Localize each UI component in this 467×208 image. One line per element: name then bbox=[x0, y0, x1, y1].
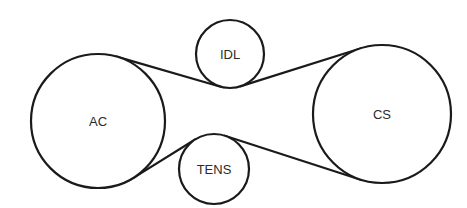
belt-routing-diagram: AC IDL TENS CS bbox=[0, 0, 467, 208]
pulley-ac-label: AC bbox=[89, 114, 107, 129]
pulley-cs: CS bbox=[313, 45, 451, 183]
pulley-cs-label: CS bbox=[373, 107, 391, 122]
pulley-idl-label: IDL bbox=[220, 47, 240, 62]
pulley-idl: IDL bbox=[196, 20, 264, 88]
pulley-tens-label: TENS bbox=[197, 162, 232, 177]
pulley-ac: AC bbox=[31, 54, 165, 188]
pulley-tens: TENS bbox=[179, 134, 249, 204]
